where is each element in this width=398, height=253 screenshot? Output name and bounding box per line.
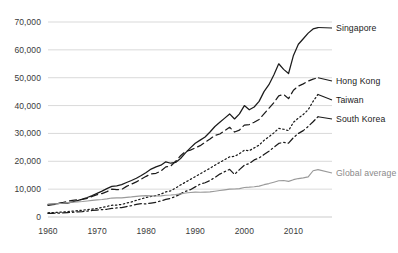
y-tick-label: 50,000 [14,73,41,83]
x-tick-label: 1990 [186,226,205,236]
x-tick-label: 1970 [87,226,106,236]
series-line-south-korea [48,117,318,214]
series-line-global-average [48,170,318,205]
y-tick-label: 20,000 [14,156,41,166]
y-tick-label: 60,000 [14,45,41,55]
chart-canvas: 010,00020,00030,00040,00050,00060,00070,… [0,0,398,253]
gridlines-group [48,22,332,217]
x-tick-label: 2000 [235,226,254,236]
y-tick-label: 30,000 [14,128,41,138]
y-tick-label: 70,000 [14,17,41,27]
series-lines-group [48,28,318,214]
gdp-per-capita-line-chart: 010,00020,00030,00040,00050,00060,00070,… [0,0,398,253]
y-tick-label: 10,000 [14,184,41,194]
leader-line [318,94,332,100]
series-label-global-average: Global average [336,168,396,178]
series-label-taiwan: Taiwan [336,95,364,105]
x-tick-label: 1980 [137,226,156,236]
series-label-south-korea: South Korea [336,114,385,124]
series-labels-group: SingaporeHong KongTaiwanSouth KoreaGloba… [336,23,396,178]
leader-line [318,78,332,81]
series-leader-lines [318,28,332,173]
series-label-hong-kong: Hong Kong [336,76,380,86]
x-tick-label: 1960 [38,226,57,236]
y-axis-tick-labels: 010,00020,00030,00040,00050,00060,00070,… [14,17,41,222]
y-tick-label: 40,000 [14,101,41,111]
leader-line [318,170,332,173]
x-axis-tick-labels: 196019701980199020002010 [38,226,303,236]
series-line-hong-kong [48,78,318,206]
series-label-singapore: Singapore [336,23,377,33]
x-tick-label: 2010 [284,226,303,236]
y-tick-label: 0 [36,212,41,222]
series-line-singapore [48,28,318,205]
leader-line [318,117,332,119]
